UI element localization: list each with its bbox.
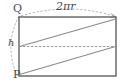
lower-helix-segment — [20, 47, 116, 75]
vertex-label-p: P — [13, 69, 20, 80]
circumference-label: 2πr — [56, 1, 76, 12]
height-label: h — [8, 38, 14, 48]
vertex-label-q: Q — [13, 3, 22, 14]
cylinder-unrolled-diagram: Q P h 2πr — [0, 0, 125, 84]
upper-helix-segment — [20, 19, 116, 47]
